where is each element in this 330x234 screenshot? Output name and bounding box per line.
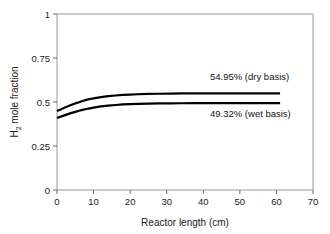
y-axis-title-base: H — [9, 130, 20, 137]
y-tick-label: 0.5 — [37, 97, 50, 108]
chart-figure: 00.250.50.751 010203040506070 54.95% (dr… — [0, 0, 330, 234]
x-tick-label: 40 — [198, 196, 209, 207]
annotation-dry-basis: 54.95% (dry basis) — [210, 71, 289, 82]
y-tick-label: 0.75 — [32, 53, 51, 64]
x-axis-title: Reactor length (cm) — [141, 217, 229, 228]
h2-mole-fraction-line-chart: 00.250.50.751 010203040506070 54.95% (dr… — [0, 0, 330, 234]
annotation-wet-basis: 49.32% (wet basis) — [210, 108, 291, 119]
y-tick-label: 0 — [45, 185, 50, 196]
x-tick-label: 60 — [271, 196, 282, 207]
y-axis-title-rest: mole fraction — [9, 66, 20, 126]
y-tick-label: 0.25 — [32, 141, 51, 152]
x-tick-label: 30 — [161, 196, 172, 207]
x-tick-label: 50 — [235, 196, 246, 207]
y-tick-label: 1 — [45, 9, 50, 20]
x-tick-label: 0 — [54, 196, 59, 207]
x-tick-label: 70 — [308, 196, 319, 207]
x-tick-label: 20 — [125, 196, 136, 207]
x-tick-label: 10 — [88, 196, 99, 207]
